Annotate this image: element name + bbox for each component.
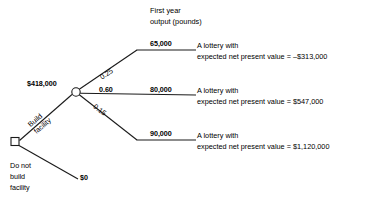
column-header: First year output (pounds) bbox=[150, 6, 202, 27]
outcome-90000-line2: expected net present value = $1,120,000 bbox=[197, 142, 329, 153]
output-65000: 65,000 bbox=[150, 39, 172, 49]
column-header-line2: output (pounds) bbox=[150, 17, 202, 28]
payoff-do-not-build: $0 bbox=[80, 173, 88, 183]
branch-label-donotbuild-line2: build bbox=[10, 171, 31, 182]
branch-label-donotbuild-line1: Do not bbox=[10, 160, 31, 171]
output-80000: 80,000 bbox=[150, 85, 172, 95]
decision-tree-diagram: First year output (pounds) $418,000 Buil… bbox=[0, 0, 366, 203]
outcome-90000-line1: A lottery with bbox=[197, 131, 329, 142]
edge-outcome-90000-diag bbox=[79, 95, 137, 140]
column-header-line1: First year bbox=[150, 6, 202, 17]
outcome-80000-line1: A lottery with bbox=[197, 86, 323, 97]
outcome-80000: A lottery with expected net present valu… bbox=[197, 86, 323, 107]
chance-node-circle bbox=[72, 88, 80, 96]
outcome-65000: A lottery with expected net present valu… bbox=[197, 41, 327, 62]
output-90000: 90,000 bbox=[150, 129, 172, 139]
probability-0.60: 0.60 bbox=[99, 85, 113, 95]
branch-label-donotbuild-line3: facility bbox=[10, 182, 31, 193]
edge-outcome-80000-flat bbox=[80, 93, 196, 95]
chance-node-value: $418,000 bbox=[27, 79, 57, 89]
decision-node-square bbox=[11, 138, 19, 146]
outcome-80000-line2: expected net present value = $547,000 bbox=[197, 97, 323, 108]
outcome-65000-line1: A lottery with bbox=[197, 41, 327, 52]
branch-label-do-not-build: Do not build facility bbox=[10, 160, 31, 193]
outcome-90000: A lottery with expected net present valu… bbox=[197, 131, 329, 152]
outcome-65000-line2: expected net present value = –$313,000 bbox=[197, 52, 327, 63]
